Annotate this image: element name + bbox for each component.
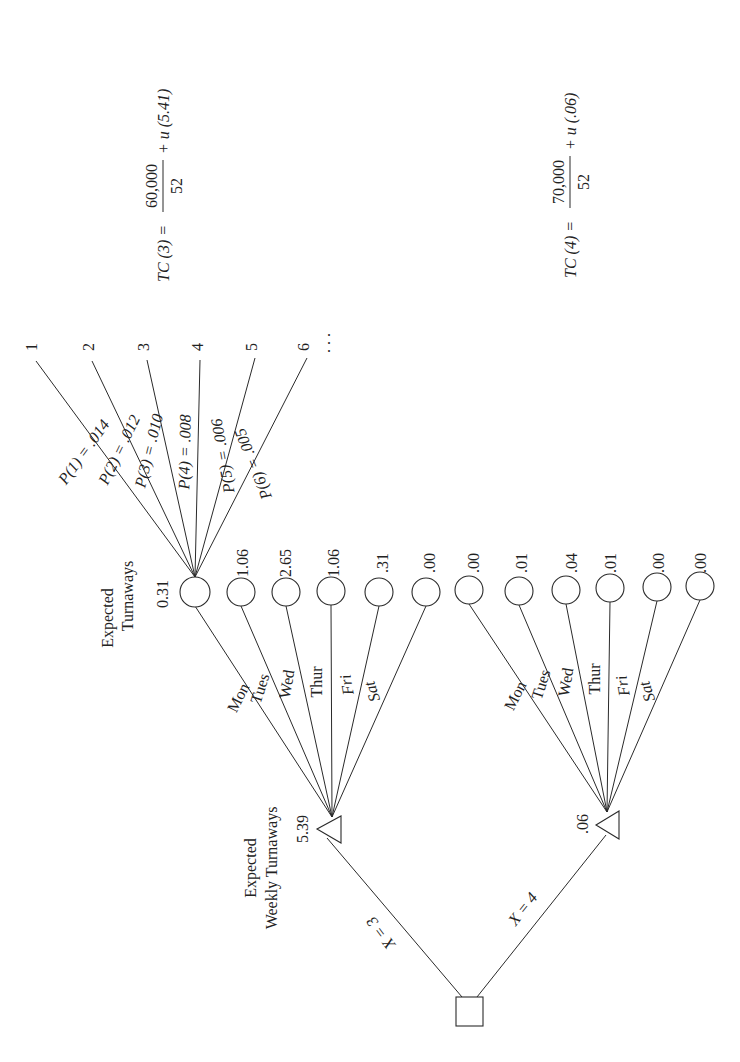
outcome-4: 4 bbox=[189, 343, 206, 351]
demand-node-triangle-x3 bbox=[317, 816, 341, 843]
branch-x4-line bbox=[477, 835, 606, 997]
chance-node-x3-mon bbox=[180, 577, 210, 607]
turnaways-x4-tues: .01 bbox=[513, 553, 530, 573]
chance-node-x4-sat bbox=[686, 572, 714, 600]
weekly-turnaways-value-x4: .06 bbox=[574, 814, 591, 834]
chance-node-x3-tues bbox=[227, 578, 255, 606]
decision-node-square bbox=[456, 997, 483, 1026]
branch-x4-label: X = 4 bbox=[504, 889, 541, 929]
day-label-x3-sat: Sat bbox=[360, 679, 383, 704]
equation-tc3-denominator: 52 bbox=[168, 178, 185, 194]
turnaways-x3-tues: 1.06 bbox=[234, 549, 251, 577]
equation-tc4: TC (4) = 70,000 52 + u (.06) bbox=[550, 93, 592, 278]
outcome-2: 2 bbox=[80, 343, 97, 351]
chance-nodes-x4 bbox=[455, 572, 714, 605]
prob-label-4: P(4) = .008 bbox=[175, 414, 194, 491]
equation-tc4-rhs: + u (.06) bbox=[562, 93, 580, 150]
outcome-5: 5 bbox=[243, 343, 260, 351]
prob-label-6: P(6) = .005 bbox=[231, 426, 276, 503]
equation-tc3: TC (3) = 60,000 52 + u (5.41) bbox=[143, 89, 185, 282]
turnaways-x3-wed: 2.65 bbox=[277, 549, 294, 577]
day-label-x3-thur: Thur bbox=[308, 666, 325, 698]
chance-node-x3-fri bbox=[365, 578, 393, 606]
turnaways-x4-fri: .00 bbox=[650, 553, 667, 573]
day-label-x3-fri: Fri bbox=[336, 673, 356, 697]
branch-x3-line bbox=[327, 838, 462, 997]
equation-tc4-lhs: TC (4) = bbox=[562, 221, 580, 278]
turnaways-x3-thur: 1.06 bbox=[325, 549, 342, 577]
equation-tc3-numerator: 60,000 bbox=[143, 164, 160, 208]
equation-tc3-rhs: + u (5.41) bbox=[155, 89, 173, 154]
outcome-3: 3 bbox=[135, 343, 152, 351]
equation-tc4-numerator: 70,000 bbox=[550, 160, 567, 204]
equation-tc4-denominator: 52 bbox=[575, 174, 592, 190]
turnaways-x4-thur: .01 bbox=[602, 553, 619, 573]
chance-node-x4-fri bbox=[643, 573, 671, 601]
weekly-caption-line2: Weekly Turnaways bbox=[263, 807, 281, 930]
turnaways-x4-mon: .00 bbox=[465, 553, 482, 573]
turnaways-x3-sat: .00 bbox=[421, 553, 438, 573]
day-label-x4-fri: Fri bbox=[612, 674, 632, 698]
turnaways-x4-wed: .04 bbox=[563, 553, 580, 573]
turnaways-x3-mon: 0.31 bbox=[154, 580, 171, 608]
weekly-caption-line1: Expected bbox=[242, 838, 260, 898]
demand-node-triangle-x4 bbox=[596, 811, 619, 839]
chance-node-x4-tues bbox=[505, 577, 533, 605]
decision-tree-canvas: X = 3 X = 4 5.39 .06 Expected Weekly Tur… bbox=[0, 0, 740, 1062]
day-label-x4-sat: Sat bbox=[635, 679, 658, 704]
day-label-x4-wed: Wed bbox=[555, 666, 577, 697]
day-label-x3-tues: Tues bbox=[247, 671, 273, 705]
decision-tree-figure: X = 3 X = 4 5.39 .06 Expected Weekly Tur… bbox=[0, 0, 740, 1062]
day-label-x4-mon: Mon bbox=[501, 678, 530, 713]
weekly-turnaways-value-x3: 5.39 bbox=[294, 815, 311, 843]
decision-branches bbox=[327, 835, 606, 997]
chance-caption-line2: Turnaways bbox=[119, 561, 137, 632]
equation-tc3-lhs: TC (3) = bbox=[155, 225, 173, 282]
prob-label-5: P(5) = .006 bbox=[208, 417, 239, 495]
outcome-1: 1 bbox=[23, 343, 40, 351]
chance-nodes-x3 bbox=[180, 577, 440, 607]
turnaways-x3-fri: .31 bbox=[374, 553, 391, 573]
chance-node-x3-sat bbox=[412, 578, 440, 606]
turnaways-x4-sat: .00 bbox=[692, 553, 709, 573]
day-label-x4-thur: Thur bbox=[586, 663, 603, 695]
branch-x3-label: X = 3 bbox=[363, 914, 399, 954]
chance-caption-line1: Expected bbox=[99, 588, 117, 648]
chance-node-x4-mon bbox=[455, 576, 483, 604]
chance-node-x4-thur bbox=[596, 574, 624, 602]
day-label-x3-wed: Wed bbox=[276, 668, 298, 699]
chance-node-x3-thur bbox=[317, 577, 345, 605]
chance-node-x3-wed bbox=[272, 578, 300, 606]
day-label-x4-tues: Tues bbox=[528, 667, 554, 701]
chance-node-x4-wed bbox=[552, 576, 580, 604]
outcome-ellipsis: . . . bbox=[316, 333, 333, 353]
outcome-6: 6 bbox=[295, 343, 312, 351]
